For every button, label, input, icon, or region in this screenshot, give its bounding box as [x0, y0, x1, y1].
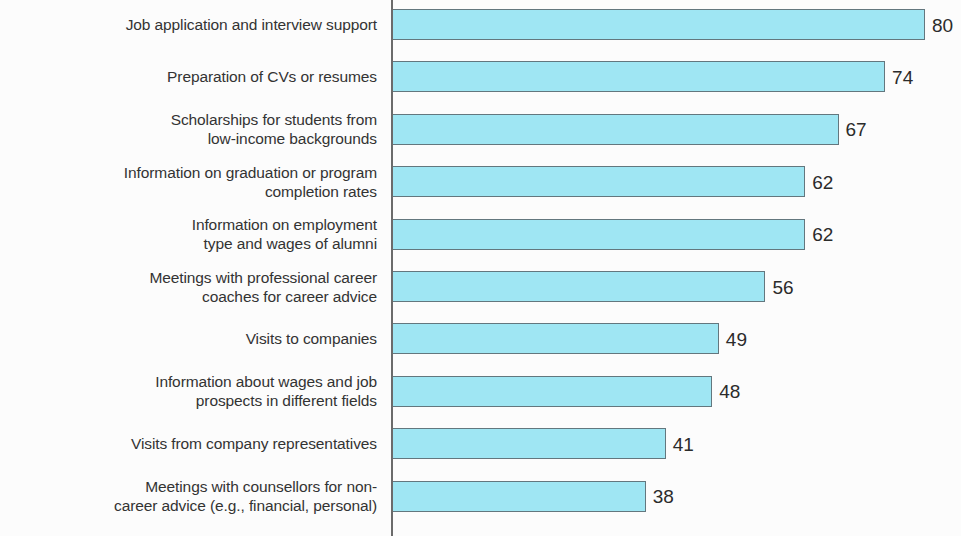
bar-row: 62 — [393, 166, 865, 197]
category-label: Information about wages and job prospect… — [0, 372, 377, 410]
bar — [393, 9, 925, 40]
category-label: Preparation of CVs or resumes — [0, 67, 377, 86]
category-label: Job application and interview support — [0, 15, 377, 34]
bar — [393, 323, 719, 354]
bar-value-label: 62 — [812, 225, 833, 244]
bar-value-label: 67 — [846, 120, 867, 139]
bar-row: 80 — [393, 9, 961, 40]
bar-row: 49 — [393, 323, 779, 354]
category-label: Visits from company representatives — [0, 434, 377, 453]
bar-row: 41 — [393, 428, 726, 459]
horizontal-bar-chart: Job application and interview support Pr… — [0, 0, 961, 536]
bar — [393, 271, 765, 302]
bar-value-label: 38 — [653, 487, 674, 506]
bar-value-label: 80 — [932, 15, 953, 34]
plot-area: 80 74 67 62 62 56 49 48 — [385, 0, 961, 536]
bar — [393, 61, 885, 92]
bar-value-label: 74 — [892, 67, 913, 86]
bar-row: 74 — [393, 61, 945, 92]
category-label: Information on graduation or program com… — [0, 163, 377, 201]
bar — [393, 166, 805, 197]
bar-value-label: 49 — [726, 329, 747, 348]
bar-row: 67 — [393, 114, 899, 145]
category-label: Scholarships for students from low-incom… — [0, 110, 377, 148]
category-label: Meetings with counsellors for non- caree… — [0, 477, 377, 515]
bar-value-label: 62 — [812, 172, 833, 191]
category-label-column: Job application and interview support Pr… — [0, 0, 385, 536]
bar — [393, 114, 839, 145]
bar-value-label: 56 — [772, 277, 793, 296]
category-label: Meetings with professional career coache… — [0, 268, 377, 306]
bar — [393, 376, 712, 407]
bar-row: 38 — [393, 481, 706, 512]
bar-row: 48 — [393, 376, 772, 407]
bar-row: 56 — [393, 271, 825, 302]
bar — [393, 481, 646, 512]
category-label: Information on employment type and wages… — [0, 215, 377, 253]
bar-row: 62 — [393, 219, 865, 250]
bar — [393, 428, 666, 459]
bar-value-label: 41 — [673, 434, 694, 453]
category-label: Visits to companies — [0, 329, 377, 348]
bar — [393, 219, 805, 250]
bar-value-label: 48 — [719, 382, 740, 401]
